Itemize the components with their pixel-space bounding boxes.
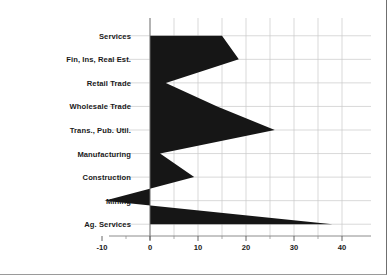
value-tick-label: 40 (338, 243, 346, 252)
value-tick-label: 30 (290, 243, 298, 252)
value-tick-label: 10 (194, 243, 202, 252)
value-tick-label: 0 (148, 243, 152, 252)
value-tick-label: -10 (97, 243, 108, 252)
chart-page: ServicesFin, Ins, Real Est.Retail TradeW… (0, 0, 387, 275)
value-tick-label: 20 (242, 243, 250, 252)
value-axis-tick-labels: -10010203040 (0, 0, 387, 275)
